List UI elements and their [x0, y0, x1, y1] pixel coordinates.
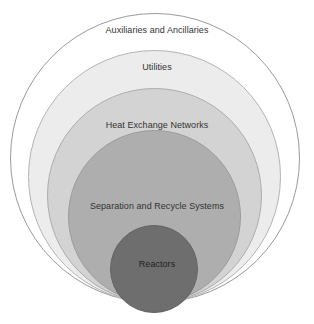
ring-reactors [110, 225, 198, 313]
onion-diagram: Auxiliaries and Ancillaries Utilities He… [0, 0, 314, 324]
